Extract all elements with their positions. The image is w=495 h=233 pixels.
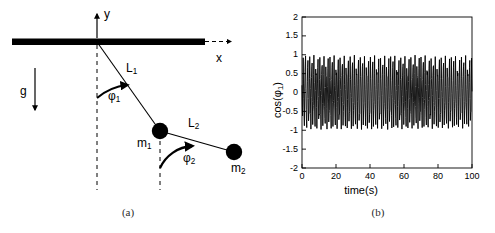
x-tick-label: 80 — [425, 172, 451, 181]
x-tick-label: 40 — [357, 172, 383, 181]
y-axis-label-base: cos(φ — [271, 90, 283, 118]
angle-phi1-label-base: φ — [108, 89, 116, 103]
mass-m1-label-sub: 1 — [147, 142, 152, 151]
x-tick-label: 0 — [289, 172, 315, 181]
mass-bob-m1 — [152, 123, 168, 139]
angle-phi1-label-sub: 1 — [116, 95, 121, 104]
figure-root: y x g L1 φ1 m1 L2 φ2 m2 (a) 21.510.50-0.… — [0, 0, 495, 233]
rod-L1-label-base: L — [126, 61, 133, 75]
rod-L1-label-sub: 1 — [133, 67, 138, 76]
mass-m1-label: m1 — [137, 137, 152, 151]
mass-m2-label-base: m — [231, 161, 241, 175]
rod-L1 — [97, 42, 160, 131]
panel-b-time-series-plot: 21.510.50-0.5-1-1.5-2 020406080100 cos(φ… — [245, 0, 495, 233]
x-axis-label-time: time(s) — [301, 184, 421, 196]
rod-L2 — [160, 131, 234, 152]
y-axis-label-cos-phi1: cos(φ1) — [271, 82, 285, 118]
y-tick-label: 0.5 — [272, 69, 298, 78]
y-axis-label: y — [104, 8, 110, 20]
x-tick-label: 100 — [459, 172, 485, 181]
y-axis-label-tail: ) — [271, 82, 283, 86]
y-tick-label: -1.5 — [272, 145, 298, 154]
angle-phi2-label-sub: 2 — [191, 157, 196, 166]
panel-a-caption: (a) — [108, 206, 148, 218]
rod-L1-label: L1 — [126, 62, 137, 76]
y-axis-label-sub: 1 — [276, 86, 285, 90]
x-axis-label: x — [216, 52, 222, 64]
y-tick-label: 1 — [272, 50, 298, 59]
gravity-label: g — [20, 85, 27, 97]
pendulum-diagram-svg — [0, 0, 250, 233]
mass-m1-label-base: m — [137, 136, 147, 150]
ceiling-support-bar — [12, 39, 205, 46]
y-tick-label: -1 — [272, 126, 298, 135]
panel-b-caption: (b) — [358, 206, 398, 218]
mass-m2-label: m2 — [231, 162, 246, 176]
angle-phi2-label: φ2 — [183, 152, 195, 166]
panel-a-double-pendulum: y x g L1 φ1 m1 L2 φ2 m2 (a) — [0, 0, 250, 233]
x-tick-label: 20 — [323, 172, 349, 181]
x-tick-label: 60 — [391, 172, 417, 181]
rod-L2-label-base: L — [188, 116, 195, 130]
y-tick-label: 2 — [272, 13, 298, 22]
y-tick-label: 1.5 — [272, 31, 298, 40]
mass-bob-m2 — [226, 144, 242, 160]
rod-L2-label-sub: 2 — [195, 122, 200, 131]
angle-phi2-label-base: φ — [183, 151, 191, 165]
rod-L2-label: L2 — [188, 117, 199, 131]
angle-phi1-label: φ1 — [108, 90, 120, 104]
